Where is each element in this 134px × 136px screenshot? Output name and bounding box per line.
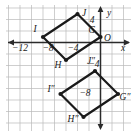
vertex-J-double-prime [93, 69, 97, 73]
x-axis-label: x [120, 43, 126, 53]
label-point-G: G [89, 25, 96, 35]
y-tick-label-neg8: −8 [79, 88, 90, 98]
vertex-G [98, 35, 102, 39]
label-point-G-double-prime: G″ [120, 92, 132, 102]
x-tick-label-neg8: −8 [42, 43, 53, 53]
origin-label: O [104, 33, 111, 43]
y-axis-label: y [106, 8, 112, 18]
label-point-H-double-prime: H″ [67, 114, 80, 124]
vertex-J [75, 12, 79, 16]
y-tick-label-pos4: 4 [90, 15, 95, 25]
coordinate-plane-svg: −12 −8 −4 4 −4 −8 y x O G H I J G″ H″ I″… [0, 0, 134, 136]
label-point-J-double-prime: J″ [87, 56, 96, 66]
vertex-I [41, 35, 45, 39]
x-tick-label-neg12: −12 [12, 43, 28, 53]
vertex-I-double-prime [58, 92, 62, 96]
coordinate-plane-figure: −12 −8 −4 4 −4 −8 y x O G H I J G″ H″ I″… [0, 0, 134, 136]
label-point-H: H [54, 60, 63, 70]
label-point-I-double-prime: I″ [46, 84, 55, 94]
vertex-H-double-prime [81, 115, 85, 119]
vertex-H [64, 58, 68, 62]
x-tick-label-neg4: −4 [67, 43, 78, 53]
